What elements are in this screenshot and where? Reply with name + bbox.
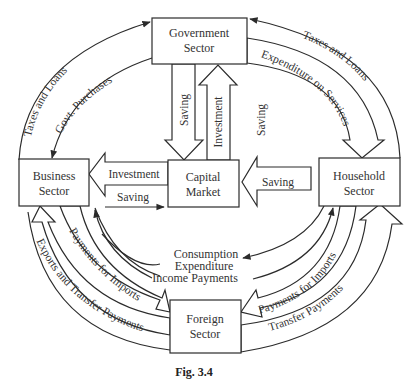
business-line2: Sector <box>39 184 70 198</box>
government-line1: Government <box>169 26 230 40</box>
income-payments-label: Income Payments <box>152 271 238 285</box>
investment-capital-business-label: Investment <box>108 168 160 180</box>
government-line2: Sector <box>184 41 215 55</box>
figure-caption: Fig. 3.4 <box>175 365 213 379</box>
saving-business-capital-label: Saving <box>117 191 149 204</box>
saving-household-capital-label: Saving <box>262 176 294 189</box>
business-sector-box: Business Sector <box>19 159 89 206</box>
saving-gov-capital-label: Saving <box>178 94 191 126</box>
business-line1: Business <box>33 169 76 183</box>
household-line1: Household <box>333 169 385 183</box>
government-sector-box: Government Sector <box>152 18 247 64</box>
foreign-line1: Foreign <box>186 312 223 326</box>
foreign-line2: Sector <box>190 327 221 341</box>
capital-market-box: Capital Market <box>168 160 239 207</box>
circular-flow-diagram: Taxes and Loans Govt. Purchases Taxes an… <box>0 0 417 385</box>
investment-capital-gov-label: Investment <box>212 96 224 148</box>
govt-purchases-label: Govt. Purchases <box>52 73 114 135</box>
saving-vertical-label: Saving <box>255 104 268 136</box>
consumption-expenditure-arrow <box>243 206 324 258</box>
household-line2: Sector <box>344 184 375 198</box>
household-sector-box: Household Sector <box>319 158 400 206</box>
foreign-sector-box: Foreign Sector <box>170 300 241 353</box>
capital-line1: Capital <box>186 170 221 184</box>
capital-line2: Market <box>186 185 221 199</box>
